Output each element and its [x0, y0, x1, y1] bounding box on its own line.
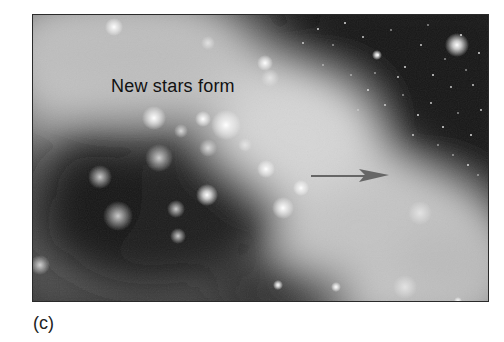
nebula-panel: New stars form [32, 14, 489, 302]
figure-caption: (c) [33, 313, 54, 334]
nebula-illustration [33, 15, 488, 301]
panel-label: New stars form [111, 76, 235, 97]
